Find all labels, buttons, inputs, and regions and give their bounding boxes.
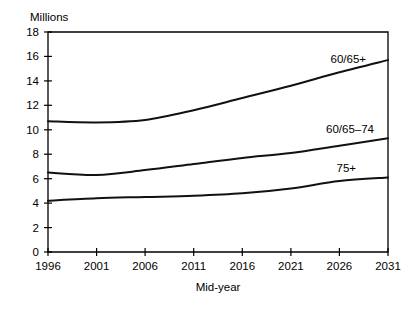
series-label-60-65-74: 60/65–74 xyxy=(326,123,375,135)
x-tick-label-2016: 2016 xyxy=(230,260,256,272)
series-labels: 60/65+ 60/65–74 75+ xyxy=(326,53,375,174)
y-tick-label-18: 18 xyxy=(26,26,39,38)
x-tick-label-2011: 2011 xyxy=(181,260,206,272)
series-label-60-65-plus: 60/65+ xyxy=(331,53,367,65)
x-tick-label-2021: 2021 xyxy=(278,260,304,272)
series-line-75-plus xyxy=(48,177,388,200)
y-tick-label-12: 12 xyxy=(26,99,39,111)
x-tick-label-2006: 2006 xyxy=(132,260,158,272)
x-tick-label-2031: 2031 xyxy=(375,260,401,272)
x-axis-title: Mid-year xyxy=(196,281,241,293)
y-axis-title: Millions xyxy=(30,11,69,23)
y-tick-label-0: 0 xyxy=(33,246,39,258)
y-tick-label-14: 14 xyxy=(26,75,39,87)
x-tick-label-1996: 1996 xyxy=(35,260,61,272)
x-axis-tick-labels: 1996 2001 2006 2011 2016 2021 2026 2031 xyxy=(35,260,401,272)
chart-container: 0 2 4 6 8 10 12 14 16 18 Millions 1996 xyxy=(0,0,417,310)
y-tick-label-8: 8 xyxy=(33,148,39,160)
plot-border xyxy=(48,32,388,252)
x-tick-label-2001: 2001 xyxy=(84,260,110,272)
y-tick-label-2: 2 xyxy=(33,222,39,234)
plot-frame xyxy=(48,32,388,252)
y-tick-label-16: 16 xyxy=(26,50,39,62)
y-tick-label-6: 6 xyxy=(33,173,39,185)
y-tick-label-4: 4 xyxy=(33,197,40,209)
y-axis-tick-labels: 0 2 4 6 8 10 12 14 16 18 xyxy=(26,26,39,258)
series-line-60-65-plus xyxy=(48,60,388,122)
y-tick-label-10: 10 xyxy=(26,124,39,136)
series-label-75-plus: 75+ xyxy=(336,162,356,174)
population-projection-line-chart: 0 2 4 6 8 10 12 14 16 18 Millions 1996 xyxy=(0,0,417,310)
x-tick-label-2026: 2026 xyxy=(327,260,353,272)
